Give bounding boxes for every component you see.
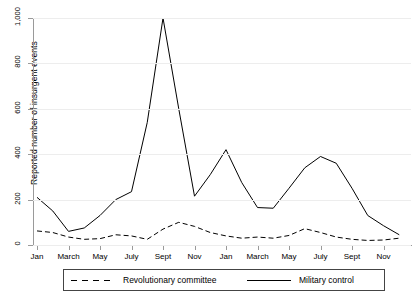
gridlines [33,18,411,245]
legend-swatch-dashed-icon [71,280,115,281]
x-tick-label: Nov [364,252,404,261]
chart-container: Reported number of insurgent events 0200… [0,0,414,296]
x-tick-mark [352,246,353,250]
x-tick-mark [258,246,259,250]
y-tick-label: 800 [0,57,34,66]
chart-legend: Revolutionary committee Military control [63,269,385,291]
gridline [33,245,411,246]
x-tick-mark [195,246,196,250]
x-tick-mark [289,246,290,250]
y-tick-label: 400 [0,148,34,157]
y-tick-label: 200 [0,194,34,203]
x-tick-mark [69,246,70,250]
x-tick-mark [321,246,322,250]
legend-swatch-solid-icon [247,280,291,281]
plot-area [33,18,411,245]
gridline [33,109,411,110]
legend-item-military-control: Military control [247,270,354,290]
x-tick-mark [384,246,385,250]
x-tick-mark [37,246,38,250]
x-tick-mark [226,246,227,250]
legend-item-revolutionary-committee: Revolutionary committee [71,270,217,290]
y-tick-label: 0 [0,239,34,248]
y-tick-label: 1,000 [0,12,34,21]
gridline [33,18,411,19]
legend-label: Revolutionary committee [123,275,217,285]
gridline [33,154,411,155]
legend-label: Military control [299,275,354,285]
x-tick-mark [132,246,133,250]
gridline [33,63,411,64]
gridline [33,200,411,201]
x-tick-mark [100,246,101,250]
x-tick-mark [163,246,164,250]
y-tick-label: 600 [0,103,34,112]
